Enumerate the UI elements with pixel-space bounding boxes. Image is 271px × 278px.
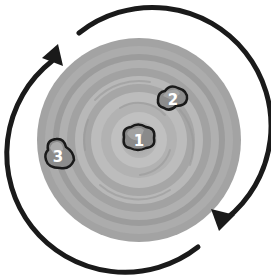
rock-3-label: 3 [53,148,63,166]
rock-1: 1 [124,125,155,151]
rock-1-label: 1 [134,132,144,150]
spinning-disk-diagram: 1 2 3 [0,0,271,278]
rock-2-label: 2 [168,91,178,109]
